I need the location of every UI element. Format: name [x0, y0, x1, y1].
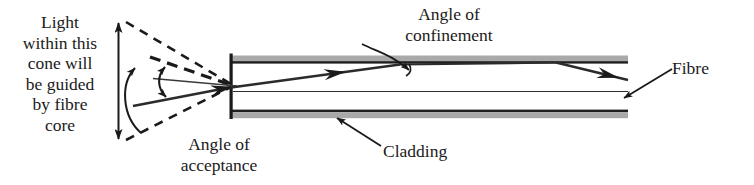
fibre-pointer — [624, 69, 672, 98]
cone-lower-dashed — [126, 87, 231, 140]
cladding-pointer — [337, 118, 381, 146]
acceptance-angle-arc — [125, 68, 141, 133]
guided-ray — [231, 63, 628, 88]
acceptance-angle-label: Angle of acceptance — [158, 134, 280, 175]
solid-incoming-ray — [133, 87, 232, 106]
cone-upper-dashed — [126, 22, 231, 84]
cladding-label: Cladding — [383, 143, 473, 161]
acceptance-angle-inner-arc — [159, 67, 166, 97]
fibre-label: Fibre — [672, 60, 736, 78]
fibre-optic-diagram: Light within this cone will be guided by… — [0, 0, 754, 185]
bottom-cladding — [231, 110, 628, 119]
top-cladding — [231, 56, 628, 64]
diagram-canvas — [0, 0, 754, 185]
cone-caption-label: Light within this cone will be guided by… — [8, 12, 112, 135]
confinement-angle-label: Angle of confinement — [382, 4, 516, 45]
